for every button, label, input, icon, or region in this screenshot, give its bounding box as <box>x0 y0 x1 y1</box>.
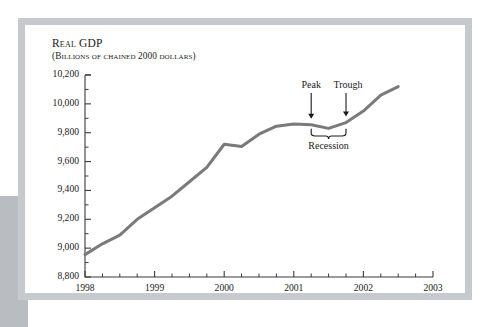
recession-label: Recession <box>289 140 369 151</box>
x-tick-label: 2002 <box>341 282 385 293</box>
y-tick-label: 9,800 <box>35 126 79 137</box>
y-tick-label: 9,200 <box>35 212 79 223</box>
axes <box>85 75 433 277</box>
y-tick-label: 9,000 <box>35 241 79 252</box>
gdp-line-series <box>85 87 398 255</box>
recession-annotations <box>308 93 349 139</box>
y-tick-label: 8,800 <box>35 270 79 281</box>
y-tick-label: 9,400 <box>35 183 79 194</box>
trough-label: Trough <box>308 79 388 90</box>
x-tick-label: 1999 <box>133 282 177 293</box>
x-tick-label: 1998 <box>63 282 107 293</box>
chart-figure: Real GDP (Billions of chained 2000 dolla… <box>0 0 495 327</box>
y-tick-label: 10,000 <box>35 97 79 108</box>
y-tick-label: 9,600 <box>35 155 79 166</box>
x-tick-label: 2000 <box>202 282 246 293</box>
x-tick-label: 2001 <box>272 282 316 293</box>
x-tick-label: 2003 <box>411 282 455 293</box>
y-tick-label: 10,200 <box>35 68 79 79</box>
